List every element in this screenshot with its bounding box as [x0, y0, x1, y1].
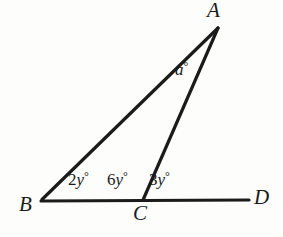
angle-2y-variable: y [77, 170, 85, 189]
point-label-B: B [19, 194, 32, 215]
degree-icon: ° [84, 169, 89, 183]
angle-label-3y: 3y° [149, 170, 170, 188]
angle-3y-coefficient: 3 [149, 170, 158, 189]
angle-6y-variable: y [116, 170, 124, 189]
degree-icon: ° [123, 169, 128, 183]
angle-label-6y: 6y° [107, 170, 128, 188]
angle-2y-coefficient: 2 [68, 170, 77, 189]
angle-label-2y: 2y° [68, 170, 89, 188]
point-label-D: D [254, 187, 269, 208]
angle-6y-coefficient: 6 [107, 170, 116, 189]
point-label-C: C [133, 203, 147, 224]
geometry-figure: A B C D 2y° 6y° 3y° a° [0, 0, 283, 237]
point-label-A: A [207, 0, 220, 21]
angle-3y-variable: y [158, 170, 166, 189]
angle-a-variable: a [175, 60, 184, 79]
angle-label-a: a° [175, 60, 188, 78]
degree-icon: ° [184, 59, 189, 73]
degree-icon: ° [165, 169, 170, 183]
